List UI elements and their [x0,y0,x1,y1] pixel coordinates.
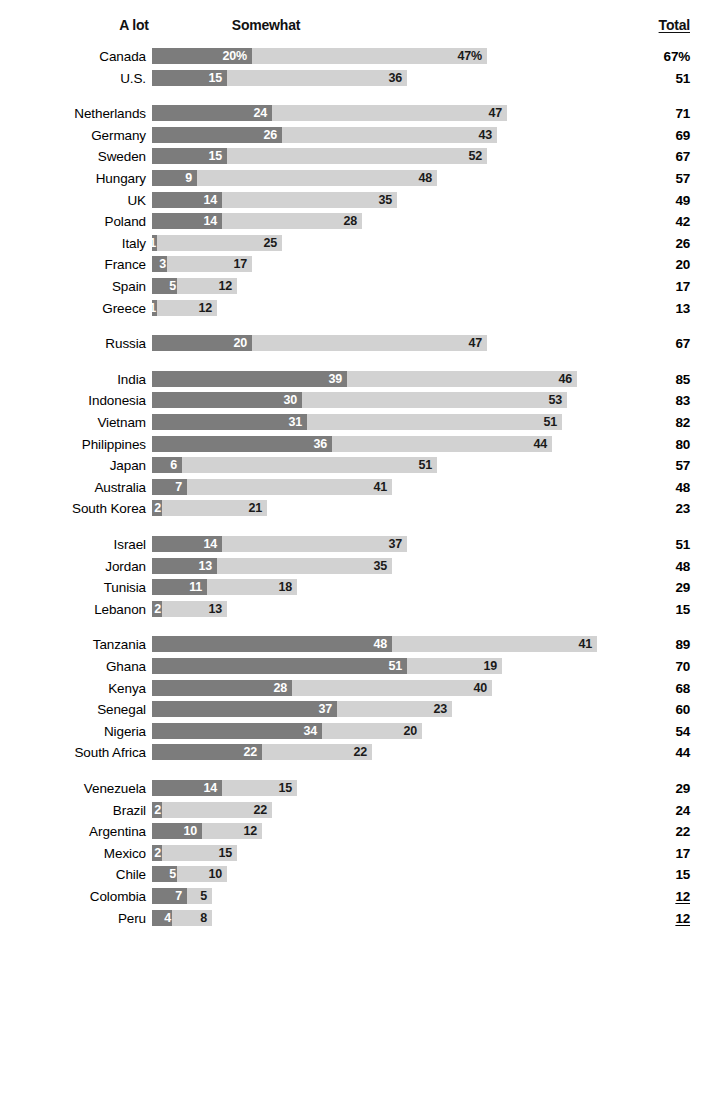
bar-segment-a-lot: 34 [152,723,322,739]
bar-segment-somewhat: 35 [222,192,397,208]
bar-value-a-lot: 39 [328,371,342,387]
bar-segment-somewhat: 35 [217,558,392,574]
total-value: 22 [596,822,690,841]
total-value: 12 [596,887,690,906]
chart-row: Tunisia111829 [0,577,705,598]
chart-row: Indonesia305383 [0,390,705,411]
country-label: Israel [0,535,146,554]
bar-value-a-lot: 9 [185,170,192,186]
chart-row: Jordan133548 [0,556,705,577]
bar-value-a-lot: 34 [303,723,317,739]
bar-value-somewhat: 47% [458,48,482,64]
bar-value-somewhat: 37 [388,536,402,552]
country-label: Ghana [0,657,146,676]
bar-value-a-lot: 15 [208,70,222,86]
bar-value-a-lot: 2 [154,500,161,516]
bar-value-a-lot: 20 [233,335,247,351]
total-value: 20 [596,255,690,274]
bar-track: 3946 [152,371,577,387]
bar-segment-somewhat: 48 [197,170,437,186]
total-value: 48 [596,557,690,576]
chart-row: Israel143751 [0,534,705,555]
bar-value-somewhat: 52 [468,148,482,164]
bar-segment-a-lot: 14 [152,780,222,796]
total-value: 29 [596,779,690,798]
bar-segment-a-lot: 5 [152,278,177,294]
bar-value-somewhat: 12 [243,823,257,839]
bar-value-somewhat: 18 [278,579,292,595]
bar-value-somewhat: 53 [548,392,562,408]
country-label: Peru [0,909,146,928]
bar-segment-somewhat: 22 [262,744,372,760]
bar-track: 1415 [152,780,297,796]
bar-value-somewhat: 41 [578,636,592,652]
bar-value-somewhat: 48 [418,170,432,186]
chart-row: Mexico21517 [0,843,705,864]
bar-segment-a-lot: 15 [152,70,227,86]
bar-value-somewhat: 22 [353,744,367,760]
total-value: 51 [596,69,690,88]
bar-segment-somewhat: 53 [302,392,567,408]
bar-track: 3644 [152,436,552,452]
bar-value-somewhat: 20 [403,723,417,739]
chart-row: Vietnam315182 [0,412,705,433]
bar-track: 3053 [152,392,567,408]
bar-segment-somewhat: 5 [187,888,212,904]
chart-row: Germany264369 [0,125,705,146]
bar-segment-a-lot: 36 [152,436,332,452]
total-value: 80 [596,435,690,454]
country-label: Sweden [0,147,146,166]
bar-track: 48 [152,910,212,926]
chart-row: Venezuela141529 [0,778,705,799]
bar-segment-somewhat: 43 [282,127,497,143]
bar-track: 3420 [152,723,422,739]
bar-segment-a-lot: 30 [152,392,302,408]
chart-row: Brazil22224 [0,800,705,821]
bar-track: 213 [152,601,227,617]
bar-value-a-lot: 36 [313,436,327,452]
bar-segment-a-lot: 39 [152,371,347,387]
total-value: 17 [596,844,690,863]
bar-segment-a-lot: 22 [152,744,262,760]
bar-segment-a-lot: 10 [152,823,202,839]
chart-row: France31720 [0,254,705,275]
country-label: Argentina [0,822,146,841]
bar-track: 2047 [152,335,487,351]
bar-segment-a-lot: 11 [152,579,207,595]
bar-segment-somewhat: 17 [167,256,252,272]
bar-segment-somewhat: 44 [332,436,552,452]
bar-segment-a-lot: 31 [152,414,307,430]
bar-value-a-lot: 14 [203,780,217,796]
bar-segment-a-lot: 2 [152,845,162,861]
bar-segment-somewhat: 47 [252,335,487,351]
bar-value-somewhat: 35 [378,192,392,208]
chart-row: Ghana511970 [0,656,705,677]
bar-segment-somewhat: 37 [222,536,407,552]
bar-value-somewhat: 5 [200,888,207,904]
country-label: Hungary [0,169,146,188]
column-header-somewhat: Somewhat [0,17,532,33]
bar-value-a-lot: 20% [223,48,247,64]
total-value: 24 [596,801,690,820]
chart-row: India394685 [0,369,705,390]
bar-value-a-lot: 37 [318,701,332,717]
chart-row: Chile51015 [0,864,705,885]
bar-value-a-lot: 14 [203,213,217,229]
country-label: Poland [0,212,146,231]
country-label: Tunisia [0,578,146,597]
bar-track: 4841 [152,636,597,652]
chart-row: Poland142842 [0,211,705,232]
bar-segment-a-lot: 51 [152,658,407,674]
country-label: Italy [0,234,146,253]
bar-track: 75 [152,888,212,904]
bar-segment-somewhat: 51 [182,457,437,473]
bar-track: 125 [152,235,282,251]
chart-row: U.S.153651 [0,68,705,89]
bar-track: 512 [152,278,237,294]
chart-row: Nigeria342054 [0,721,705,742]
chart-row: UK143549 [0,190,705,211]
country-label: Kenya [0,679,146,698]
bar-value-somewhat: 12 [198,300,212,316]
bar-track: 3151 [152,414,562,430]
total-value: 57 [596,169,690,188]
